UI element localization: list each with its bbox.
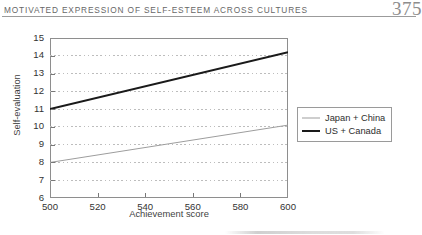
line-chart-figure: Self-evaluation 6789101112131415 5005205… bbox=[0, 22, 416, 235]
y-tick-label: 12 bbox=[22, 85, 44, 96]
header-rule bbox=[2, 16, 416, 17]
y-tick-label: 8 bbox=[22, 156, 44, 167]
x-axis-title: Achievement score bbox=[50, 208, 288, 219]
y-tick-label: 7 bbox=[22, 174, 44, 185]
legend-item-0: Japan + China bbox=[302, 111, 385, 124]
series-line-1 bbox=[50, 52, 288, 109]
chart-legend: Japan + ChinaUS + Canada bbox=[297, 107, 392, 142]
y-axis-title: Self-evaluation bbox=[12, 50, 22, 160]
scan-artifact bbox=[225, 231, 385, 234]
x-tick-mark bbox=[145, 193, 146, 197]
plot-lines bbox=[50, 38, 288, 198]
legend-item-1: US + Canada bbox=[302, 124, 385, 137]
y-tick-label: 11 bbox=[22, 103, 44, 114]
y-tick-mark bbox=[51, 127, 55, 128]
legend-line-swatch bbox=[302, 126, 320, 136]
y-tick-label: 14 bbox=[22, 49, 44, 60]
y-tick-label: 13 bbox=[22, 67, 44, 78]
y-tick-mark bbox=[51, 56, 55, 57]
x-tick-mark bbox=[98, 193, 99, 197]
y-tick-mark bbox=[51, 145, 55, 146]
y-tick-mark bbox=[51, 162, 55, 163]
legend-label: Japan + China bbox=[325, 113, 385, 123]
legend-line-swatch bbox=[302, 113, 320, 123]
x-tick-mark bbox=[193, 193, 194, 197]
y-tick-mark bbox=[51, 180, 55, 181]
page-number: 375 bbox=[392, 0, 422, 20]
y-tick-mark bbox=[51, 109, 55, 110]
running-head: Motivated Expression of Self-Esteem Acro… bbox=[4, 5, 308, 15]
series-line-0 bbox=[50, 125, 288, 162]
y-tick-mark bbox=[51, 74, 55, 75]
y-tick-mark bbox=[51, 91, 55, 92]
y-tick-label: 15 bbox=[22, 32, 44, 43]
series-lines bbox=[50, 52, 288, 162]
legend-label: US + Canada bbox=[325, 126, 381, 136]
page-header: Motivated Expression of Self-Esteem Acro… bbox=[0, 0, 416, 22]
y-tick-label: 10 bbox=[22, 120, 44, 131]
gridlines bbox=[50, 56, 288, 180]
y-tick-label: 9 bbox=[22, 138, 44, 149]
x-tick-mark bbox=[240, 193, 241, 197]
